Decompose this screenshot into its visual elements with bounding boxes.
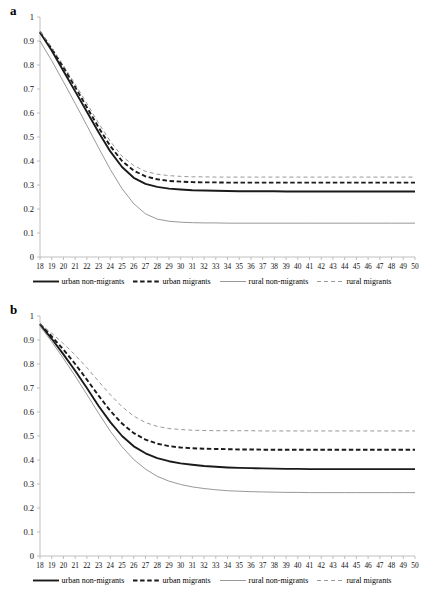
svg-text:39: 39 xyxy=(282,262,290,271)
svg-text:30: 30 xyxy=(177,262,185,271)
svg-text:42: 42 xyxy=(318,561,326,570)
svg-text:27: 27 xyxy=(142,262,150,271)
svg-text:20: 20 xyxy=(60,262,68,271)
svg-text:49: 49 xyxy=(400,262,408,271)
svg-text:28: 28 xyxy=(153,561,161,570)
legend-line-swatch xyxy=(133,278,159,285)
svg-text:34: 34 xyxy=(224,561,232,570)
legend-label: rural non-migrants xyxy=(249,277,309,286)
legend-line-swatch xyxy=(220,278,246,285)
svg-text:40: 40 xyxy=(294,262,302,271)
legend-entry: urban non-migrants xyxy=(33,576,125,585)
svg-text:19: 19 xyxy=(48,561,56,570)
svg-text:25: 25 xyxy=(118,561,126,570)
svg-text:0.7: 0.7 xyxy=(23,383,34,393)
svg-text:23: 23 xyxy=(95,561,103,570)
svg-text:0.1: 0.1 xyxy=(23,527,34,537)
legend-line-swatch xyxy=(33,278,59,285)
svg-text:0.3: 0.3 xyxy=(23,479,34,489)
svg-text:0.7: 0.7 xyxy=(23,84,34,94)
svg-text:38: 38 xyxy=(271,561,279,570)
legend-label: urban migrants xyxy=(162,576,210,585)
svg-text:43: 43 xyxy=(329,561,337,570)
svg-text:29: 29 xyxy=(165,561,173,570)
svg-text:39: 39 xyxy=(282,561,290,570)
svg-text:25: 25 xyxy=(118,262,126,271)
svg-text:47: 47 xyxy=(376,561,384,570)
svg-text:23: 23 xyxy=(95,262,103,271)
svg-text:0.2: 0.2 xyxy=(23,503,34,513)
svg-text:33: 33 xyxy=(212,262,220,271)
svg-text:0.8: 0.8 xyxy=(23,60,34,70)
svg-text:18: 18 xyxy=(36,561,44,570)
svg-text:26: 26 xyxy=(130,262,138,271)
svg-text:33: 33 xyxy=(212,561,220,570)
svg-text:21: 21 xyxy=(71,262,79,271)
svg-text:0.9: 0.9 xyxy=(23,335,34,345)
panel-a: a 00.10.20.30.40.50.60.70.80.91181920212… xyxy=(0,0,424,299)
svg-text:0.6: 0.6 xyxy=(23,108,34,118)
svg-text:0.9: 0.9 xyxy=(23,36,34,46)
legend-entry: urban migrants xyxy=(133,576,210,585)
svg-text:0.5: 0.5 xyxy=(23,132,34,142)
svg-text:1: 1 xyxy=(30,12,34,22)
svg-text:47: 47 xyxy=(376,262,384,271)
svg-text:42: 42 xyxy=(318,262,326,271)
svg-text:31: 31 xyxy=(189,561,197,570)
legend-line-swatch xyxy=(317,577,343,584)
panel-b: b 00.10.20.30.40.50.60.70.80.91181920212… xyxy=(0,299,424,598)
svg-text:41: 41 xyxy=(306,561,314,570)
svg-text:48: 48 xyxy=(388,262,396,271)
svg-text:49: 49 xyxy=(400,561,408,570)
svg-text:36: 36 xyxy=(247,262,255,271)
svg-text:24: 24 xyxy=(107,561,115,570)
svg-text:21: 21 xyxy=(71,561,79,570)
svg-text:30: 30 xyxy=(177,561,185,570)
svg-text:22: 22 xyxy=(83,262,91,271)
svg-text:44: 44 xyxy=(341,262,349,271)
legend-line-swatch xyxy=(220,577,246,584)
legend-entry: rural non-migrants xyxy=(220,576,309,585)
legend-label: urban non-migrants xyxy=(62,576,125,585)
legend-entry: urban non-migrants xyxy=(33,277,125,286)
svg-text:50: 50 xyxy=(411,262,419,271)
svg-text:48: 48 xyxy=(388,561,396,570)
svg-text:0.4: 0.4 xyxy=(23,156,34,166)
legend-label: rural migrants xyxy=(346,576,391,585)
svg-text:43: 43 xyxy=(329,262,337,271)
svg-text:0.5: 0.5 xyxy=(23,431,34,441)
svg-text:35: 35 xyxy=(236,262,244,271)
svg-text:0: 0 xyxy=(30,252,34,262)
svg-text:19: 19 xyxy=(48,262,56,271)
svg-text:18: 18 xyxy=(36,262,44,271)
svg-text:50: 50 xyxy=(411,561,419,570)
legend-line-swatch xyxy=(317,278,343,285)
legend-entry: rural non-migrants xyxy=(220,277,309,286)
svg-text:41: 41 xyxy=(306,262,314,271)
figure-container: a 00.10.20.30.40.50.60.70.80.91181920212… xyxy=(0,0,424,598)
legend-line-swatch xyxy=(33,577,59,584)
svg-text:35: 35 xyxy=(236,561,244,570)
svg-text:0.6: 0.6 xyxy=(23,407,34,417)
svg-text:46: 46 xyxy=(364,561,372,570)
svg-text:32: 32 xyxy=(200,262,208,271)
panel-a-legend: urban non-migrantsurban migrantsrural no… xyxy=(0,277,424,286)
svg-text:26: 26 xyxy=(130,561,138,570)
svg-text:0.1: 0.1 xyxy=(23,228,34,238)
svg-text:0.8: 0.8 xyxy=(23,359,34,369)
svg-text:45: 45 xyxy=(353,262,361,271)
svg-text:27: 27 xyxy=(142,561,150,570)
svg-text:0.2: 0.2 xyxy=(23,204,34,214)
legend-label: rural non-migrants xyxy=(249,576,309,585)
svg-text:34: 34 xyxy=(224,262,232,271)
panel-a-plot: 00.10.20.30.40.50.60.70.80.9118192021222… xyxy=(0,0,424,275)
legend-label: rural migrants xyxy=(346,277,391,286)
svg-text:31: 31 xyxy=(189,262,197,271)
svg-text:1: 1 xyxy=(30,311,34,321)
svg-text:46: 46 xyxy=(364,262,372,271)
legend-entry: rural migrants xyxy=(317,576,391,585)
svg-text:22: 22 xyxy=(83,561,91,570)
panel-b-legend: urban non-migrantsurban migrantsrural no… xyxy=(0,576,424,585)
svg-text:38: 38 xyxy=(271,262,279,271)
panel-b-plot: 00.10.20.30.40.50.60.70.80.9118192021222… xyxy=(0,299,424,574)
